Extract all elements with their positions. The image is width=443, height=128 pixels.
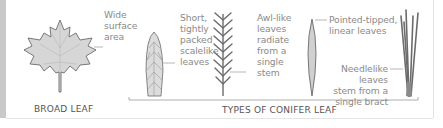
annotation-line: stem <box>257 67 291 78</box>
needlelike-annotation: Needlelike leaves stem from a single bra… <box>318 63 388 107</box>
annotation-line: linear leaves <box>329 25 397 36</box>
annotation-line: from a <box>257 45 291 56</box>
annotation-line: Wide <box>104 9 137 20</box>
annotation-line: Needlelike leaves <box>318 63 388 85</box>
annotation-line: surface <box>104 20 137 31</box>
annotation-line: Pointed-tipped, <box>329 14 397 25</box>
scalelike-leaf-illustration <box>146 32 175 96</box>
annotation-line: packed <box>180 34 219 45</box>
broad-leaf-annotation: Wide surface area <box>104 9 137 42</box>
annotation-line: single <box>257 56 291 67</box>
annotation-line: scalelike <box>180 45 219 56</box>
scalelike-annotation: Short, tightly packed scalelike leaves <box>180 12 219 67</box>
annotation-line: area <box>104 31 137 42</box>
linear-annotation: Pointed-tipped, linear leaves <box>329 14 397 36</box>
annotation-line: stem from a <box>318 85 388 96</box>
broad-leaf-caption: BROAD LEAF <box>34 104 93 114</box>
annotation-line: leaves <box>257 23 291 34</box>
annotation-line: radiate <box>257 34 291 45</box>
annotation-line: leaves <box>180 56 219 67</box>
conifer-group-caption: TYPES OF CONIFER LEAF <box>222 105 337 115</box>
annotation-line: Short, <box>180 12 219 23</box>
broad-leaf-illustration <box>24 20 103 92</box>
awl-like-annotation: Awl-like leaves radiate from a single st… <box>257 12 291 78</box>
annotation-line: tightly <box>180 23 219 34</box>
annotation-line: Awl-like <box>257 12 291 23</box>
